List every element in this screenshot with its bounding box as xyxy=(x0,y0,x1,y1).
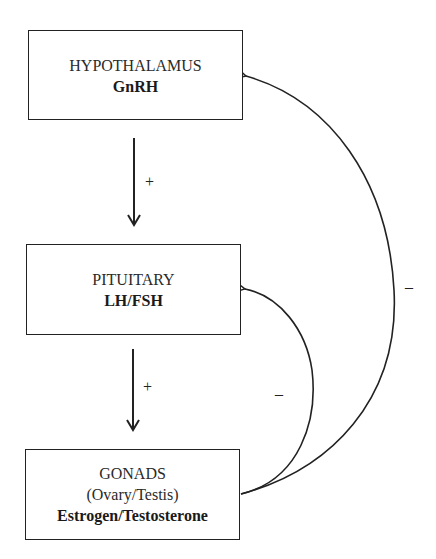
plus-sign-pit-gon: + xyxy=(143,379,152,395)
gnrh-label: GnRH xyxy=(113,76,158,97)
gonads-box: GONADS (Ovary/Testis) Estrogen/Testoster… xyxy=(25,449,240,540)
arrow-hyp-to-pit xyxy=(128,138,140,225)
arrow-pit-to-gon xyxy=(127,349,139,430)
hypothalamus-label: HYPOTHALAMUS xyxy=(69,55,201,76)
minus-sign-short-feedback: – xyxy=(275,386,283,402)
pituitary-label: PITUITARY xyxy=(92,269,174,290)
lh-fsh-label: LH/FSH xyxy=(104,290,163,311)
feedback-arc-gon-to-hyp xyxy=(241,76,394,494)
plus-sign-hyp-pit: + xyxy=(145,174,154,190)
pituitary-box: PITUITARY LH/FSH xyxy=(26,244,241,335)
minus-sign-long-feedback: – xyxy=(405,279,413,295)
gonads-label: GONADS xyxy=(99,463,166,484)
estrogen-testosterone-label: Estrogen/Testosterone xyxy=(57,505,208,526)
ovary-testis-label: (Ovary/Testis) xyxy=(86,484,178,505)
hypothalamus-box: HYPOTHALAMUS GnRH xyxy=(28,30,243,120)
